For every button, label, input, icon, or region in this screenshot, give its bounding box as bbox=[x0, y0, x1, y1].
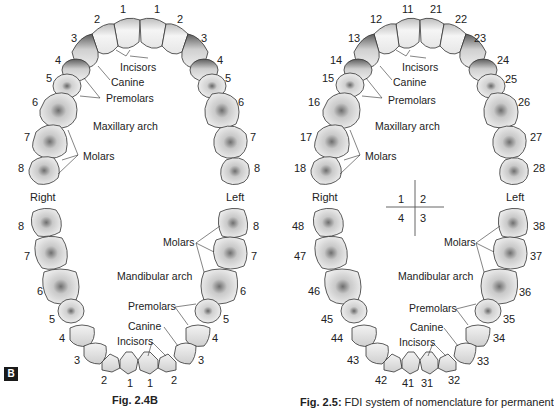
tooth-number: 46 bbox=[308, 285, 320, 297]
side-label-left: Left bbox=[506, 191, 524, 203]
tooth-lower-third-molar-left bbox=[218, 208, 247, 237]
tooth-upper-third-molar-left bbox=[221, 158, 250, 185]
quadrant-4: 4 bbox=[398, 212, 404, 224]
tooth-lower-second-premolar-left bbox=[195, 299, 221, 323]
label-premolars: Premolars bbox=[128, 300, 176, 312]
tooth-number: 33 bbox=[477, 355, 489, 367]
tooth-lower-central-incisor-right bbox=[120, 352, 138, 374]
label-molars: Molars bbox=[163, 236, 195, 248]
tooth-lower-third-molar-right bbox=[31, 208, 61, 236]
mandibular-arch-teeth bbox=[313, 208, 527, 374]
tooth-lower-first-molar-right bbox=[43, 269, 79, 304]
tooth-number: 11 bbox=[402, 3, 413, 15]
tooth-number: 1 bbox=[120, 3, 126, 15]
tooth-number: 8 bbox=[253, 220, 259, 232]
label-mandibular-arch: Mandibular arch bbox=[117, 270, 192, 282]
tooth-number: 45 bbox=[321, 313, 333, 325]
tooth-number: 7 bbox=[250, 131, 256, 143]
tooth-38 bbox=[498, 208, 527, 237]
tooth-33 bbox=[454, 343, 476, 364]
tooth-number: 8 bbox=[18, 162, 24, 174]
tooth-upper-first-molar-left bbox=[205, 93, 239, 128]
tooth-number: 41 bbox=[402, 377, 414, 389]
tooth-number: 18 bbox=[294, 162, 306, 174]
side-label-right: Right bbox=[312, 191, 338, 203]
tooth-number: 34 bbox=[493, 332, 505, 344]
tooth-26 bbox=[484, 93, 518, 128]
tooth-number: 6 bbox=[32, 96, 38, 108]
label-maxillary-arch: Maxillary arch bbox=[375, 120, 440, 132]
tooth-number: 35 bbox=[503, 313, 515, 325]
tooth-number: 44 bbox=[331, 332, 343, 344]
tooth-number: 2 bbox=[171, 374, 177, 386]
tooth-number: 31 bbox=[421, 377, 433, 389]
tooth-lower-second-molar-left bbox=[213, 237, 247, 269]
tooth-lower-lateral-incisor-left bbox=[158, 354, 176, 372]
tooth-number: 15 bbox=[322, 72, 334, 84]
tooth-number: 27 bbox=[530, 131, 542, 143]
tooth-lower-second-premolar-right bbox=[58, 299, 84, 323]
label-premolars: Premolars bbox=[388, 94, 436, 106]
quadrant-2: 2 bbox=[420, 193, 426, 205]
tooth-number: 48 bbox=[292, 220, 304, 232]
tooth-number: 2 bbox=[177, 13, 183, 25]
tooth-number: 5 bbox=[225, 72, 231, 84]
label-canine: Canine bbox=[393, 76, 426, 88]
tooth-upper-first-molar-right bbox=[40, 93, 77, 128]
tooth-number: 13 bbox=[348, 32, 360, 44]
figure-panel-badge: B bbox=[4, 367, 18, 381]
tooth-16 bbox=[323, 93, 360, 128]
tooth-number: 32 bbox=[448, 374, 460, 386]
tooth-number: 1 bbox=[147, 377, 153, 389]
tooth-number: 42 bbox=[375, 374, 387, 386]
label-canine: Canine bbox=[128, 320, 161, 332]
label-molars: Molars bbox=[83, 150, 115, 162]
side-label-left: Left bbox=[226, 191, 244, 203]
tooth-28 bbox=[500, 158, 529, 185]
label-incisors: Incisors bbox=[402, 61, 438, 73]
tooth-17 bbox=[314, 125, 349, 159]
tooth-number: 7 bbox=[24, 131, 30, 143]
mandibular-arch-teeth bbox=[31, 208, 247, 374]
tooth-number: 17 bbox=[300, 131, 312, 143]
side-label-right: Right bbox=[30, 191, 56, 203]
tooth-number: 1 bbox=[127, 377, 133, 389]
tooth-number: 14 bbox=[330, 54, 342, 66]
tooth-number: 5 bbox=[46, 72, 52, 84]
tooth-number: 25 bbox=[505, 73, 517, 85]
tooth-number: 23 bbox=[474, 32, 486, 44]
tooth-number: 21 bbox=[430, 3, 442, 15]
label-premolars: Premolars bbox=[409, 302, 457, 314]
tooth-number: 8 bbox=[254, 162, 260, 174]
tooth-number: 5 bbox=[49, 313, 55, 325]
tooth-47 bbox=[315, 236, 347, 269]
label-molars: Molars bbox=[365, 150, 397, 162]
tooth-number: 16 bbox=[308, 96, 320, 108]
label-incisors: Incisors bbox=[399, 336, 435, 348]
tooth-lower-canine-left bbox=[174, 343, 196, 364]
tooth-31 bbox=[420, 352, 438, 374]
tooth-number: 38 bbox=[533, 220, 545, 232]
tooth-45 bbox=[341, 299, 367, 323]
tooth-number: 7 bbox=[251, 250, 257, 262]
label-premolars: Premolars bbox=[106, 92, 154, 104]
tooth-number: 24 bbox=[497, 54, 509, 66]
figure-b: 1 1 2 2 3 3 4 4 5 5 6 6 7 7 8 8 Incisors… bbox=[18, 3, 260, 389]
tooth-41 bbox=[402, 352, 420, 374]
tooth-number: 4 bbox=[217, 54, 223, 66]
caption-text: FDI system of nomenclature for permanent bbox=[342, 396, 554, 408]
tooth-number: 6 bbox=[240, 285, 246, 297]
quadrant-1: 1 bbox=[398, 193, 404, 205]
tooth-number: 3 bbox=[71, 32, 77, 44]
tooth-11 bbox=[396, 18, 420, 48]
tooth-lower-second-molar-right bbox=[35, 236, 67, 269]
tooth-number: 12 bbox=[370, 13, 382, 25]
label-maxillary-arch: Maxillary arch bbox=[93, 120, 158, 132]
tooth-upper-second-molar-left bbox=[214, 126, 247, 158]
quadrant-3: 3 bbox=[420, 212, 426, 224]
tooth-number: 4 bbox=[212, 332, 218, 344]
figure-fdi: 11 21 12 22 13 23 14 24 15 25 16 26 17 2… bbox=[292, 3, 545, 389]
tooth-18 bbox=[311, 157, 341, 185]
tooth-number: 4 bbox=[55, 54, 61, 66]
